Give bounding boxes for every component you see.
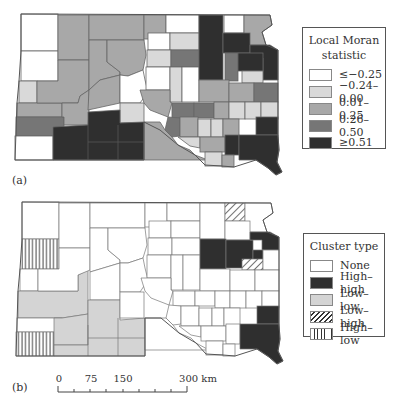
county	[183, 255, 200, 290]
scale-tick-75: 75	[85, 373, 98, 384]
legend-title-line2: statistic	[303, 48, 385, 63]
county	[263, 250, 279, 270]
county-high-high	[200, 239, 226, 269]
county	[255, 270, 279, 291]
county	[181, 306, 199, 326]
legend-swatch-none	[310, 260, 333, 272]
county	[212, 308, 224, 326]
county-high-low	[22, 239, 59, 269]
county-high-high	[240, 324, 283, 364]
legend-title-line1: Local Moran	[303, 33, 385, 48]
county	[147, 255, 171, 278]
county	[59, 203, 90, 248]
legend-swatch-high-low	[310, 328, 333, 340]
legend-item: High–low	[304, 325, 384, 342]
county	[201, 326, 226, 341]
county	[171, 255, 183, 290]
legend-swatch	[309, 69, 332, 81]
scale-tick-150: 150	[113, 373, 132, 384]
legend-label: 0.26–0.50	[339, 113, 385, 139]
legend-swatch	[309, 86, 332, 98]
legend-swatch	[309, 137, 332, 149]
county	[167, 203, 200, 221]
county	[225, 221, 250, 240]
county	[226, 324, 240, 344]
legend-local-moran: Local Moran statistic ≤−0.25 −0.24–0.00 …	[302, 27, 386, 149]
scale-tick-300: 300 km	[179, 373, 217, 384]
county	[199, 308, 212, 326]
county	[171, 221, 200, 238]
legend-swatch	[309, 103, 332, 115]
county-high-high	[257, 306, 279, 324]
county	[195, 291, 215, 306]
county	[200, 203, 225, 239]
legend-cluster-type: Cluster type None High–high Low–low Low–…	[303, 233, 385, 337]
county	[262, 291, 279, 308]
legend-title: Local Moran statistic	[303, 33, 385, 63]
county	[200, 269, 230, 291]
legend-swatch-high-high	[310, 277, 333, 289]
county-high-low	[16, 332, 54, 356]
legend-swatch	[309, 120, 332, 132]
legend-item: 0.26–0.50	[303, 117, 385, 134]
county	[148, 238, 172, 255]
county	[224, 308, 240, 326]
county-low-high	[242, 259, 263, 270]
county	[90, 203, 145, 228]
scale-tick-0: 0	[56, 373, 62, 384]
county	[172, 238, 200, 255]
county	[215, 291, 230, 308]
county-low-low	[54, 314, 88, 345]
legend-title: Cluster type	[304, 239, 384, 254]
legend-label: High–low	[340, 321, 384, 347]
scale-bar: 0 75 150 300 km	[0, 373, 300, 403]
county	[141, 278, 173, 305]
county	[230, 291, 246, 308]
county	[149, 221, 171, 238]
legend-item: ≥0.51	[303, 134, 385, 151]
county	[223, 344, 235, 356]
county	[22, 202, 59, 239]
county	[20, 269, 38, 291]
county	[246, 291, 262, 308]
legend-label: ≥0.51	[339, 136, 373, 149]
legend-swatch-low-high	[310, 311, 333, 323]
legend-swatch-low-low	[310, 294, 333, 306]
panel-label-a: (a)	[12, 174, 27, 187]
county	[206, 341, 223, 355]
county	[173, 291, 195, 306]
county-low-high	[225, 203, 245, 221]
county	[120, 292, 144, 318]
county	[230, 270, 255, 291]
